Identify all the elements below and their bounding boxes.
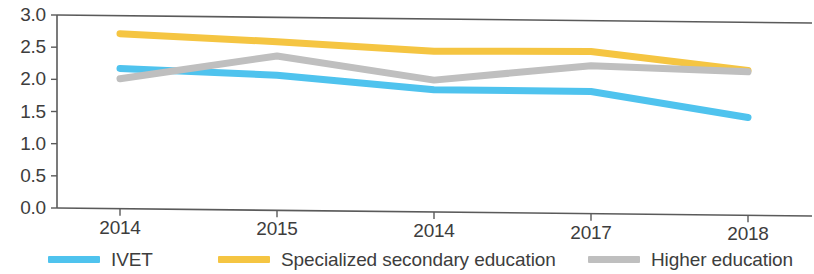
x-tick-label: 2017 xyxy=(570,223,611,242)
x-tick-label: 2014 xyxy=(413,221,454,240)
chart-legend: IVETSpecialized secondary educationHighe… xyxy=(0,244,814,274)
x-axis: 20142015201420172018 xyxy=(0,0,814,274)
x-tick-label: 2014 xyxy=(99,218,140,237)
legend-label: Higher education xyxy=(651,250,793,269)
legend-label: Specialized secondary education xyxy=(281,250,556,269)
legend-swatch-icon xyxy=(218,256,270,263)
x-tick-label: 2018 xyxy=(727,224,768,243)
plot-area: 0.00.51.01.52.02.53.0 201420152014201720… xyxy=(0,0,814,240)
legend-item[interactable]: IVET xyxy=(48,244,153,274)
x-tick-label: 2015 xyxy=(256,219,297,238)
legend-item[interactable]: Specialized secondary education xyxy=(218,244,556,274)
legend-swatch-icon xyxy=(48,256,100,263)
line-chart: 0.00.51.01.52.02.53.0 201420152014201720… xyxy=(0,0,814,274)
legend-label: IVET xyxy=(111,250,153,269)
legend-swatch-icon xyxy=(588,256,640,263)
legend-item[interactable]: Higher education xyxy=(588,244,793,274)
